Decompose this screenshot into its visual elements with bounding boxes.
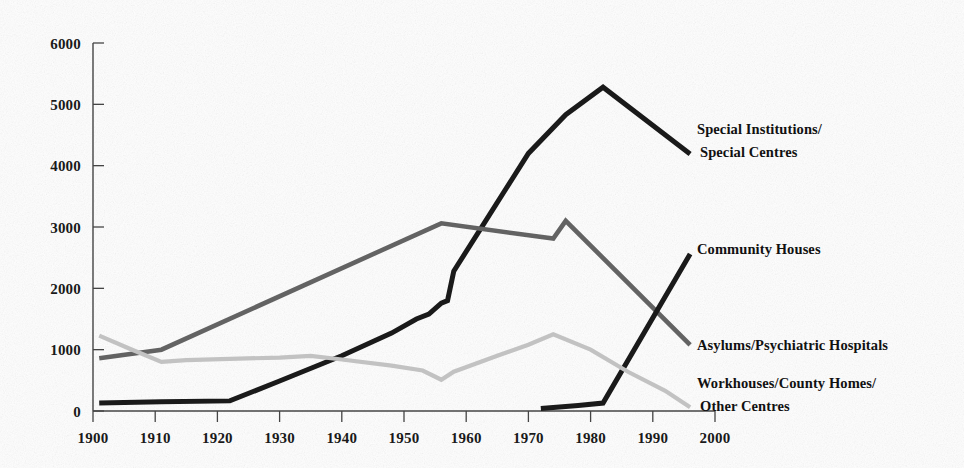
y-tick-label: 3000 <box>50 220 81 236</box>
x-tick-label: 1960 <box>451 430 482 446</box>
y-tick-label: 6000 <box>50 36 81 52</box>
x-tick-label: 1910 <box>140 430 171 446</box>
x-tick-label: 1970 <box>513 430 544 446</box>
x-tick-label: 1950 <box>389 430 420 446</box>
series-label-text: Other Centres <box>700 398 790 414</box>
y-tick-label: 5000 <box>50 97 81 113</box>
paper-texture <box>0 0 964 468</box>
x-tick-label: 1920 <box>202 430 233 446</box>
x-tick-label: 1990 <box>637 430 668 446</box>
x-tick-label: 1980 <box>575 430 606 446</box>
x-tick-label: 1900 <box>78 430 109 446</box>
series-label-text: Community Houses <box>697 241 821 257</box>
chart-container: 0100020003000400050006000 19001910192019… <box>0 0 964 468</box>
y-tick-label: 0 <box>73 404 81 420</box>
y-tick-label: 2000 <box>50 281 81 297</box>
x-tick-label: 1940 <box>326 430 357 446</box>
series-label-text: Special Centres <box>700 144 798 160</box>
x-tick-label: 2000 <box>700 430 731 446</box>
series-label-text: Workhouses/County Homes/ <box>697 375 877 391</box>
series-label-text: Special Institutions/ <box>697 121 823 137</box>
y-tick-label: 1000 <box>50 342 81 358</box>
series-label-text: Asylums/Psychiatric Hospitals <box>697 337 888 353</box>
y-tick-label: 4000 <box>50 158 81 174</box>
line-chart: 0100020003000400050006000 19001910192019… <box>0 0 964 468</box>
x-tick-label: 1930 <box>264 430 295 446</box>
